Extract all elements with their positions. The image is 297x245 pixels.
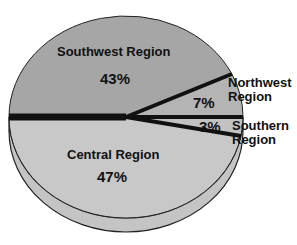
label-northwest-name-1: Northwest [228,76,292,90]
label-southern-name-1: Southern [232,119,289,133]
label-central-pct: 47% [97,170,127,184]
label-southwest-pct: 43% [100,72,130,86]
label-southern-pct: 3% [199,120,221,134]
label-southern-name-2: Region [232,133,276,147]
label-northwest-name-2: Region [228,90,272,104]
label-southwest-name: Southwest Region [57,45,170,59]
label-northwest-pct: 7% [193,96,215,110]
label-central-name: Central Region [67,148,159,162]
